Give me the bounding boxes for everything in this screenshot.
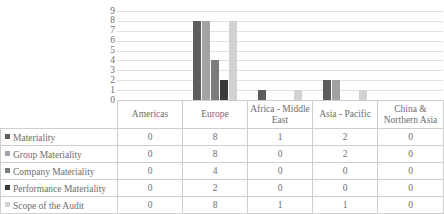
plot-area: [117, 11, 443, 100]
column-header: China & Northern Asia: [378, 101, 444, 129]
bar: [202, 21, 210, 100]
column-header: Europe: [183, 101, 248, 129]
legend-swatch-icon: [5, 151, 10, 156]
column-header: Asia - Pacific: [313, 101, 378, 129]
table-cell: 0: [248, 146, 313, 163]
bar: [211, 60, 219, 100]
bar: [294, 90, 302, 100]
column-header: Africa - Middle East: [248, 101, 313, 129]
data-table-body: AmericasEuropeAfrica - Middle EastAsia -…: [1, 101, 444, 214]
table-row: Company Materiality04000: [1, 163, 444, 180]
bar-group-africa-middle-east: [247, 11, 312, 100]
table-row: Group Materiality08020: [1, 146, 444, 163]
table-cell: 0: [378, 146, 444, 163]
y-tick-2: 2: [95, 76, 115, 86]
legend-row-label: Company Materiality: [1, 163, 118, 180]
table-cell: 1: [248, 197, 313, 214]
bar-groups: [117, 11, 443, 100]
legend-row-label: Scope of the Audit: [1, 197, 118, 214]
table-row: Performance Materiality02000: [1, 180, 444, 197]
table-cell: 0: [313, 180, 378, 197]
bar: [258, 90, 266, 100]
chart-with-data-table: 9876543210 AmericasEuropeAfrica - Middle…: [0, 0, 443, 212]
table-cell: 2: [183, 180, 248, 197]
y-tick-3: 3: [95, 66, 115, 76]
y-tick-1: 1: [95, 86, 115, 96]
table-row: Materiality08120: [1, 129, 444, 146]
table-cell: 0: [378, 180, 444, 197]
table-cell: 1: [313, 197, 378, 214]
bar: [229, 21, 237, 100]
table-cell: 2: [313, 129, 378, 146]
bar: [332, 80, 340, 100]
table-cell: 1: [248, 129, 313, 146]
table-cell: 0: [118, 197, 183, 214]
legend-row-label: Performance Materiality: [1, 180, 118, 197]
bar-group-europe: [182, 11, 247, 100]
table-header-row: AmericasEuropeAfrica - Middle EastAsia -…: [1, 101, 444, 129]
table-cell: 0: [313, 163, 378, 180]
bar-group-china-northern-asia: [378, 11, 443, 100]
table-cell: 4: [183, 163, 248, 180]
legend-label-text: Performance Materiality: [13, 183, 106, 193]
table-cell: 8: [183, 146, 248, 163]
table-cell: 2: [313, 146, 378, 163]
legend-label-text: Company Materiality: [13, 166, 95, 176]
table-cell: 0: [248, 180, 313, 197]
column-header: Americas: [118, 101, 183, 129]
y-axis-tick-labels: 9876543210: [95, 4, 115, 104]
data-table: AmericasEuropeAfrica - Middle EastAsia -…: [0, 100, 444, 214]
table-cell: 0: [378, 197, 444, 214]
legend-label-text: Materiality: [13, 132, 55, 142]
table-cell: 0: [378, 129, 444, 146]
legend-swatch-icon: [5, 185, 10, 190]
table-row: Scope of the Audit08110: [1, 197, 444, 214]
legend-row-label: Materiality: [1, 129, 118, 146]
bar: [359, 90, 367, 100]
legend-row-label: Group Materiality: [1, 146, 118, 163]
table-cell: 0: [378, 163, 444, 180]
legend-label-text: Group Materiality: [13, 149, 82, 159]
bar: [193, 21, 201, 100]
bar-group-asia-pacific: [313, 11, 378, 100]
bar: [323, 80, 331, 100]
bar-group-americas: [117, 11, 182, 100]
table-cell: 8: [183, 129, 248, 146]
y-tick-4: 4: [95, 56, 115, 66]
table-cell: 8: [183, 197, 248, 214]
legend-label-text: Scope of the Audit: [13, 200, 84, 210]
table-cell: 0: [248, 163, 313, 180]
legend-swatch-icon: [5, 168, 10, 173]
table-corner-cell: [1, 101, 118, 129]
table-cell: 0: [118, 146, 183, 163]
legend-swatch-icon: [5, 202, 10, 207]
table-cell: 0: [118, 180, 183, 197]
table-cell: 0: [118, 163, 183, 180]
bar: [220, 80, 228, 100]
table-cell: 0: [118, 129, 183, 146]
legend-swatch-icon: [5, 134, 10, 139]
